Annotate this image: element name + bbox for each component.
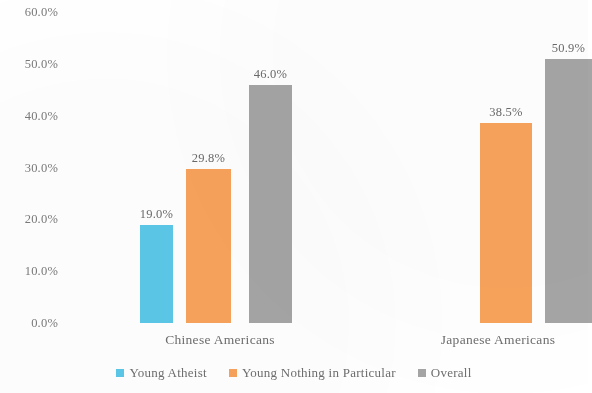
x-axis-category-chinese-americans: Chinese Americans	[130, 330, 310, 350]
bar-fill	[140, 225, 173, 323]
bar-fill	[186, 169, 231, 323]
bar-fill	[480, 123, 532, 323]
bar-value-label: 38.5%	[489, 106, 522, 119]
legend-swatch-icon	[116, 369, 124, 377]
legend-swatch-icon	[229, 369, 237, 377]
bar-value-label: 50.9%	[552, 42, 585, 55]
legend-label: Overall	[431, 366, 472, 380]
bars-layer: 19.0% 29.8% 46.0% 38.5% 50.9%	[0, 0, 588, 355]
bar-japanese-americans-young-nothing-in-particular[interactable]: 38.5%	[480, 123, 532, 323]
bar-japanese-americans-overall[interactable]: 50.9%	[545, 59, 592, 323]
bar-value-label: 19.0%	[140, 208, 173, 221]
bar-chinese-americans-overall[interactable]: 46.0%	[249, 85, 292, 323]
legend-item-young-nothing-in-particular[interactable]: Young Nothing in Particular	[229, 366, 396, 380]
bar-chinese-americans-young-nothing-in-particular[interactable]: 29.8%	[186, 169, 231, 323]
legend-swatch-icon	[418, 369, 426, 377]
plot-area: 60.0% 50.0% 40.0% 30.0% 20.0% 10.0% 0.0%…	[0, 0, 588, 355]
bar-fill	[545, 59, 592, 323]
bar-fill	[249, 85, 292, 323]
bar-value-label: 46.0%	[254, 68, 287, 81]
legend-item-overall[interactable]: Overall	[418, 366, 472, 380]
legend-label: Young Atheist	[129, 366, 206, 380]
bar-chinese-americans-young-atheist[interactable]: 19.0%	[140, 225, 173, 323]
chart-legend: Young Atheist Young Nothing in Particula…	[0, 361, 588, 385]
x-axis-category-japanese-americans: Japanese Americans	[408, 330, 588, 350]
legend-label: Young Nothing in Particular	[242, 366, 396, 380]
legend-item-young-atheist[interactable]: Young Atheist	[116, 366, 206, 380]
bar-value-label: 29.8%	[192, 152, 225, 165]
x-axis: Chinese Americans Japanese Americans	[0, 330, 588, 354]
